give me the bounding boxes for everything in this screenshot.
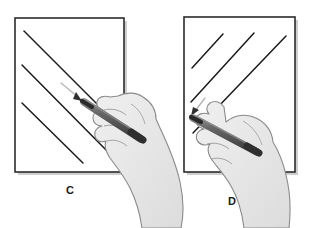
panel-d-label: D <box>228 195 236 207</box>
panel-c-label: C <box>66 184 74 196</box>
figure-canvas: C <box>0 0 309 228</box>
two-panel-illustration: C <box>0 0 309 228</box>
